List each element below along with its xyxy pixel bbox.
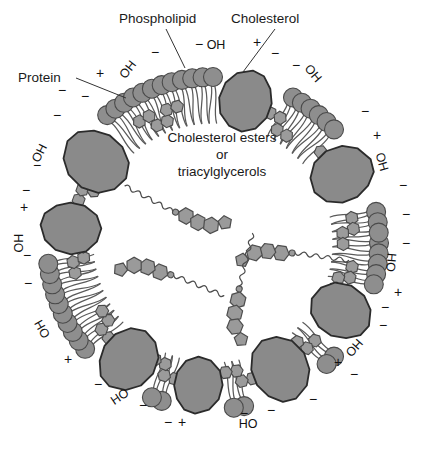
charge-negative: − xyxy=(402,235,410,251)
charge-positive: + xyxy=(373,127,381,143)
charge-negative: − xyxy=(94,376,102,392)
hydroxyl-label: HO xyxy=(239,417,258,431)
charge-negative: − xyxy=(379,317,387,333)
charge-positive: + xyxy=(64,351,72,367)
lipoprotein-diagram: +−−+−−−+−−−+−−−+−−−+−−−+−−+−−−−− OHOHOHO… xyxy=(0,0,428,450)
charge-positive: + xyxy=(253,34,261,50)
phospholipid-head xyxy=(204,68,223,87)
hydroxyl-label: OH xyxy=(207,38,226,52)
cholesterol-ring xyxy=(337,237,349,251)
charge-negative: − xyxy=(309,391,317,407)
charge-positive: + xyxy=(178,414,186,430)
callout-label-protein: Protein xyxy=(18,70,61,85)
phospholipid-head xyxy=(364,275,383,294)
charge-negative: − xyxy=(22,182,30,198)
charge-positive: + xyxy=(394,284,402,300)
charge-negative: − xyxy=(164,414,172,430)
charge-positive: + xyxy=(334,354,342,370)
charge-negative: − xyxy=(195,36,203,52)
charge-negative: − xyxy=(292,57,300,73)
phospholipid-head xyxy=(39,254,58,273)
hydroxyl-label: HO xyxy=(383,252,399,272)
charge-negative: − xyxy=(24,275,32,291)
phospholipid-head xyxy=(325,120,344,139)
charge-positive: + xyxy=(96,65,104,81)
charge-negative: − xyxy=(267,402,275,418)
charge-negative: − xyxy=(139,397,147,413)
core-label-line3: triacylglycerols xyxy=(178,164,267,179)
charge-negative: − xyxy=(361,103,369,119)
core-label-line1: Cholesterol esters xyxy=(168,130,277,145)
callout-label-phospholipid: Phospholipid xyxy=(119,11,196,26)
charge-negative: − xyxy=(350,366,358,382)
charge-negative: − xyxy=(399,177,407,193)
charge-negative: − xyxy=(271,45,279,61)
callout-label-cholesterol: Cholesterol xyxy=(231,11,299,26)
phospholipid-head xyxy=(369,223,388,242)
ester-oxygen xyxy=(289,250,296,257)
charge-negative: − xyxy=(81,88,89,104)
core-label-line2: or xyxy=(216,147,229,162)
hydroxyl-label: OH xyxy=(12,234,26,253)
charge-negative: − xyxy=(402,206,410,222)
charge-positive: + xyxy=(20,199,28,215)
charge-negative: − xyxy=(151,44,159,60)
charge-negative: − xyxy=(53,107,61,123)
charge-negative: − xyxy=(381,299,389,315)
lipoprotein-svg-canvas: +−−+−−−+−−−+−−−+−−−+−−−+−−+−−−−− OHOHOHO… xyxy=(0,0,428,450)
